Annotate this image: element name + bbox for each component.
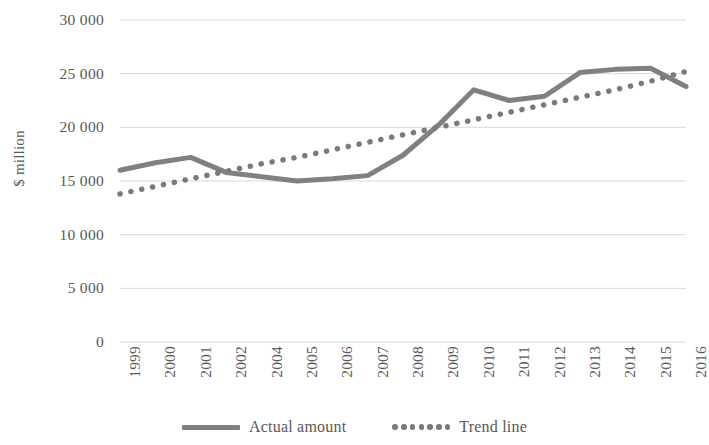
x-axis-tick-label: 2004 — [268, 346, 286, 378]
y-axis-tick-label: 20 000 — [0, 118, 104, 136]
x-axis-tick-label: 2006 — [338, 346, 356, 378]
x-axis-tick-label: 2013 — [586, 346, 604, 378]
solid-line-swatch-icon — [182, 425, 240, 430]
line-chart: $ million 05 00010 00015 00020 00025 000… — [0, 0, 709, 445]
y-axis-tick-label: 15 000 — [0, 172, 104, 190]
x-axis-tick-label: 1999 — [126, 346, 144, 378]
dotted-line-swatch-icon — [392, 424, 450, 430]
x-axis-tick-label: 2015 — [657, 346, 675, 378]
x-axis-tick-label: 2001 — [197, 346, 215, 378]
legend-label-actual-amount: Actual amount — [249, 418, 346, 436]
y-axis-tick-label: 10 000 — [0, 226, 104, 244]
x-axis-tick-label: 2014 — [621, 346, 639, 378]
y-axis-tick-labels: 05 00010 00015 00020 00025 00030 000 — [0, 0, 104, 360]
legend-label-trend-line: Trend line — [459, 418, 527, 436]
x-axis-tick-label: 2002 — [232, 346, 250, 378]
y-axis-tick-label: 25 000 — [0, 65, 104, 83]
y-axis-tick-label: 30 000 — [0, 11, 104, 29]
series-layer — [120, 68, 686, 194]
series-line-actual-amount — [120, 68, 686, 181]
x-axis-tick-label: 2000 — [161, 346, 179, 378]
chart-legend: Actual amount Trend line — [0, 418, 709, 436]
plot-svg — [120, 20, 686, 342]
x-axis-tick-label: 2011 — [515, 346, 533, 377]
x-axis-tick-label: 2008 — [409, 346, 427, 378]
x-axis-tick-label: 2005 — [303, 346, 321, 378]
x-axis-tick-label: 2009 — [444, 346, 462, 378]
legend-item-trend-line[interactable]: Trend line — [392, 418, 527, 436]
x-axis-tick-label: 2010 — [480, 346, 498, 378]
series-line-trend-line — [120, 72, 686, 194]
x-axis-tick-label: 2007 — [374, 346, 392, 378]
y-axis-tick-label: 5 000 — [0, 279, 104, 297]
legend-item-actual-amount[interactable]: Actual amount — [182, 418, 346, 436]
plot-area — [120, 20, 686, 342]
x-axis-tick-labels: 1999200020012002200420052006200720082009… — [120, 346, 686, 404]
x-axis-tick-label: 2016 — [692, 346, 709, 378]
y-axis-tick-label: 0 — [0, 333, 104, 351]
x-axis-tick-label: 2012 — [551, 346, 569, 378]
